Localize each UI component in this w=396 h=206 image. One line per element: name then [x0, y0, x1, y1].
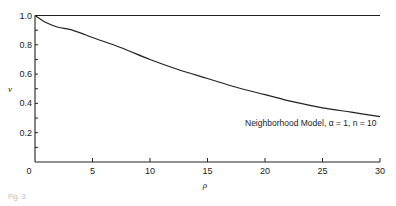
x-tick-label: 15 — [202, 166, 212, 176]
x-axis-label: ρ — [202, 180, 208, 190]
y-tick-label: 0.8 — [19, 40, 32, 50]
axes: 0510152025300.20.40.60.81.0 — [19, 11, 385, 177]
x-tick-label: 10 — [145, 166, 155, 176]
x-tick-label: 25 — [317, 166, 327, 176]
y-tick-label: 1.0 — [19, 11, 32, 21]
series-lines — [35, 16, 380, 117]
series-annotation: Neighborhood Model, α = 1, n = 10 — [245, 118, 377, 128]
y-tick-label: 0.6 — [19, 69, 32, 79]
figure-caption: Fig. 3 — [8, 193, 26, 200]
x-tick-label: 30 — [375, 166, 385, 176]
neighborhood-model-curve — [35, 16, 380, 117]
x-tick-label: 20 — [260, 166, 270, 176]
y-axis-label: v — [8, 84, 12, 94]
y-tick-label: 0.4 — [19, 98, 32, 108]
x-tick-label: 5 — [90, 166, 95, 176]
x-tick-label: 0 — [26, 166, 31, 176]
y-tick-label: 0.2 — [19, 128, 32, 138]
line-chart: 0510152025300.20.40.60.81.0 ρ v Neighbor… — [0, 0, 396, 206]
